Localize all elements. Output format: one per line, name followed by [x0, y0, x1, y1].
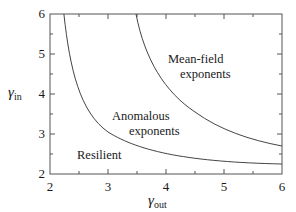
x-tick-3: 3: [105, 179, 112, 194]
y-axis-label: γin: [8, 84, 22, 102]
y-tick-6: 6: [39, 6, 46, 21]
y-tick-5: 5: [39, 46, 46, 61]
region-label-meanfield-line2: exponents: [180, 67, 231, 81]
x-tick-labels: 2 3 4 5 6: [47, 179, 286, 194]
region-label-meanfield-line1: Mean-field: [168, 52, 224, 66]
y-tick-labels: 2 3 4 5 6: [39, 6, 46, 181]
x-axis-label: γout: [148, 192, 167, 210]
region-label-resilient: Resilient: [77, 148, 122, 162]
x-tick-5: 5: [221, 179, 228, 194]
y-tick-4: 4: [39, 86, 46, 101]
y-tick-2: 2: [39, 166, 46, 181]
y-tick-3: 3: [39, 126, 46, 141]
region-label-anomalous-line2: exponents: [129, 124, 180, 138]
x-tick-4: 4: [163, 179, 170, 194]
x-tick-6: 6: [279, 179, 286, 194]
x-tick-2: 2: [47, 179, 54, 194]
phase-diagram-chart: 2 3 4 5 6 2 3 4 5 6 γin γout Resilient A…: [0, 0, 296, 212]
curve-resilient-boundary: [64, 14, 282, 164]
region-label-anomalous-line1: Anomalous: [112, 109, 170, 123]
